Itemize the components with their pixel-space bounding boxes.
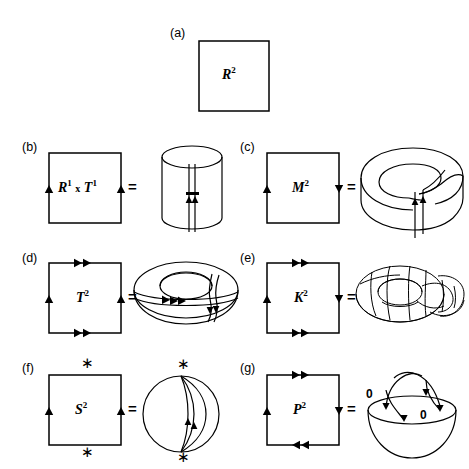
- panel-c-square: [266, 152, 356, 242]
- edge-arrow-right-down: [335, 295, 343, 303]
- panel-g-equals: =: [347, 400, 356, 417]
- antipodal-label-right: 0: [420, 408, 427, 422]
- panel-b-label: (b): [22, 140, 37, 154]
- sphere-mark-top-asterisk: ∗: [177, 357, 190, 372]
- shape-klein-bottle: [352, 250, 469, 346]
- edge-arrow-right-down: [335, 407, 343, 415]
- edge-arrow-left-up: [45, 407, 53, 415]
- edge-arrow-bottom-right-2: [301, 329, 309, 337]
- edge-arrow-right-up: [117, 407, 125, 415]
- edge-arrow-bottom-right-2: [83, 329, 91, 337]
- panel-g-square: [266, 374, 356, 464]
- antipodal-arrow-4: [436, 405, 443, 412]
- edge-arrow-left-up: [263, 407, 271, 415]
- antipodal-arrow-1: [382, 403, 389, 410]
- panel-f-label: (f): [22, 361, 34, 375]
- edge-arrow-top-right-1: [292, 259, 300, 267]
- edge-arrow-right-down: [335, 185, 343, 193]
- panel-e-square: [266, 262, 356, 352]
- shape-hemisphere: [360, 362, 469, 468]
- edge-arrow-top-right-2: [301, 371, 309, 379]
- panel-b-square-label: R1 x T1: [58, 178, 97, 196]
- panel-e-square-label: K2: [294, 288, 308, 306]
- edge-arrow-left-up: [45, 295, 53, 303]
- edge-arrow-right-up: [117, 185, 125, 193]
- panel-e-label: (e): [240, 251, 255, 265]
- shape-mobius-band: [357, 142, 469, 242]
- edge-arrow-top-right-1: [292, 371, 300, 379]
- edge-arrow-right-up: [117, 295, 125, 303]
- panel-d-square-label: T2: [76, 288, 89, 306]
- edge-arrow-bottom-right-1: [292, 329, 300, 337]
- edge-arrow-bottom-left-1: [292, 441, 300, 449]
- panel-g-label: (g): [240, 361, 255, 375]
- sphere-mark-bottom-asterisk: ∗: [177, 450, 190, 465]
- edge-arrow-top-right-1: [74, 259, 82, 267]
- edge-arrow-top-right-2: [83, 259, 91, 267]
- panel-c-square-label: M2: [292, 178, 309, 196]
- edge-arrow-bottom-left-2: [301, 441, 309, 449]
- panel-a-label: (a): [170, 26, 185, 40]
- edge-arrow-bottom-right-1: [74, 329, 82, 337]
- panel-f-equals: =: [128, 400, 137, 417]
- edge-arrow-top-right-2: [301, 259, 309, 267]
- panel-f-square-label: S2: [75, 400, 87, 418]
- panel-b-equals: =: [128, 178, 137, 195]
- panel-c-label: (c): [240, 140, 255, 154]
- antipodal-label-left: 0: [366, 387, 373, 401]
- panel-g-square-label: P2: [293, 400, 306, 418]
- panel-d-square: [48, 262, 138, 352]
- panel-c-equals: =: [347, 178, 356, 195]
- edge-arrow-left-up: [263, 295, 271, 303]
- square-mark-top-asterisk: ∗: [81, 356, 94, 371]
- panel-b-square: [48, 152, 138, 242]
- panel-a-square-label: R2: [222, 65, 236, 83]
- shape-cylinder: [150, 140, 236, 242]
- panel-a-square: [198, 40, 278, 120]
- square-mark-bottom-asterisk: ∗: [81, 445, 94, 460]
- panel-d-label: (d): [22, 251, 37, 265]
- edge-arrow-left-up: [45, 185, 53, 193]
- edge-arrow-left-up: [263, 185, 271, 193]
- shape-torus: [132, 252, 242, 344]
